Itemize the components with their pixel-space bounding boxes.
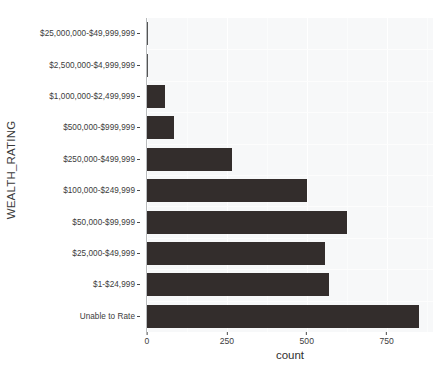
bar-3 [147,116,174,139]
plot-panel [147,18,433,332]
y-tick-mark-icon [137,96,140,97]
y-tick-mark-icon [137,33,140,34]
x-tick-label: 0 [145,336,150,346]
y-tick-7: $25,000-$49,999 [22,238,144,269]
y-tick-mark-icon [137,316,140,317]
x-tick-mark-icon [386,332,387,335]
y-tick-1: $2,500,000-$4,999,999 [22,49,144,80]
x-tick-label: 750 [379,336,393,346]
bar-row [147,144,433,175]
x-tick: 500 [300,332,314,346]
bar-4 [147,148,232,171]
bar-row [147,81,433,112]
y-axis-title-text: WEALTH_RATING [5,121,17,220]
bar-7 [147,242,325,265]
y-tick-mark-icon [137,159,140,160]
bar-row [147,175,433,206]
y-tick-label: $25,000-$49,999 [72,249,135,258]
bar-row [147,18,433,49]
y-tick-3: $500,000-$999,999 [22,112,144,143]
y-axis-tick-labels: $25,000,000-$49,999,999 $2,500,000-$4,99… [22,18,144,332]
bars-layer [147,18,433,332]
y-tick-mark-icon [137,127,140,128]
y-tick-label: Unable to Rate [80,312,135,321]
y-tick-label: $1,000,000-$2,499,999 [49,92,135,101]
x-tick-label: 500 [300,336,314,346]
y-tick-8: $1-$24,999 [22,269,144,300]
bar-9 [147,305,419,328]
bar-2 [147,85,165,108]
x-tick-mark-icon [147,332,148,335]
x-tick: 0 [145,332,150,346]
bar-row [147,301,433,332]
y-tick-label: $1-$24,999 [93,280,135,289]
y-tick-mark-icon [137,65,140,66]
y-tick-5: $100,000-$249,999 [22,175,144,206]
y-tick-6: $50,000-$99,999 [22,206,144,237]
x-tick: 250 [220,332,234,346]
y-tick-mark-icon [137,190,140,191]
bar-6 [147,211,347,234]
y-tick-label: $25,000,000-$49,999,999 [40,29,135,38]
y-axis-title: WEALTH_RATING [0,0,22,340]
bar-row [147,49,433,80]
bar-chart: WEALTH_RATING $25,000,000-$49,999,999 $2… [0,0,447,369]
y-tick-label: $2,500,000-$4,999,999 [49,61,135,70]
y-tick-label: $500,000-$999,999 [63,123,135,132]
bar-0 [147,22,148,45]
y-tick-label: $250,000-$499,999 [63,155,135,164]
bar-row [147,238,433,269]
y-tick-2: $1,000,000-$2,499,999 [22,81,144,112]
y-tick-label: $50,000-$99,999 [72,218,135,227]
bar-row [147,206,433,237]
y-tick-mark-icon [137,222,140,223]
bar-5 [147,179,307,202]
bar-1 [147,54,148,77]
y-tick-label: $100,000-$249,999 [63,186,135,195]
bar-row [147,269,433,300]
x-tick-mark-icon [226,332,227,335]
x-tick-label: 250 [220,336,234,346]
y-tick-mark-icon [137,284,140,285]
y-tick-0: $25,000,000-$49,999,999 [22,18,144,49]
x-tick: 750 [379,332,393,346]
y-tick-9: Unable to Rate [22,301,144,332]
bar-8 [147,273,329,296]
x-tick-mark-icon [306,332,307,335]
y-tick-4: $250,000-$499,999 [22,144,144,175]
x-axis-title: count [147,349,433,361]
y-tick-mark-icon [137,253,140,254]
bar-row [147,112,433,143]
